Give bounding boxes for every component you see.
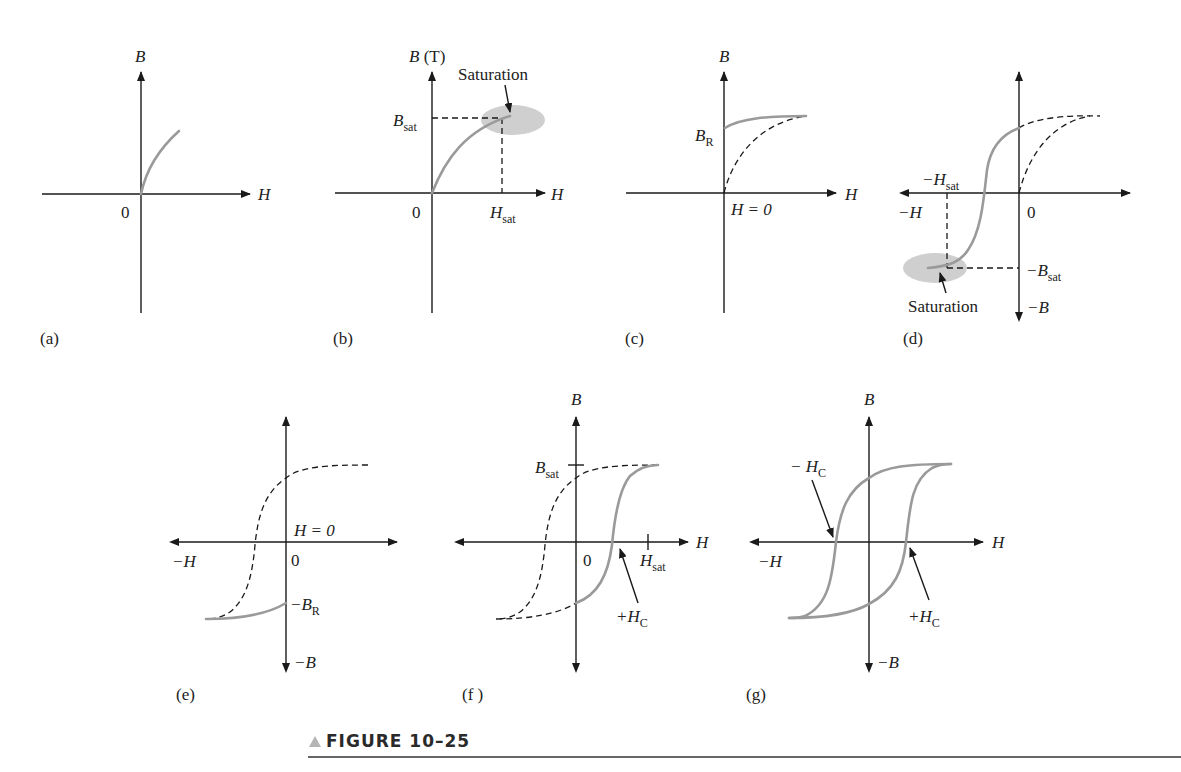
hysteresis-figure: B H 0 (a) B (T) Saturation Bsat Hsat H 0… <box>0 0 1181 772</box>
neg-b-label: −B <box>877 653 899 672</box>
origin-label: 0 <box>121 203 130 222</box>
neg-h-label: −H <box>758 552 783 571</box>
saturation-label: Saturation <box>908 297 978 316</box>
bsat-label: Bsat <box>535 458 559 481</box>
upper-curve <box>1019 116 1100 128</box>
saturation-region <box>481 105 545 135</box>
panel-b: B (T) Saturation Bsat Hsat H 0 (b) <box>333 47 565 348</box>
panel-label: (f ) <box>462 685 483 704</box>
origin-label: 0 <box>412 203 421 222</box>
neg-hc-label: − HC <box>790 457 826 480</box>
h-axis-label: H <box>550 185 565 204</box>
initial-curve <box>724 116 806 193</box>
panel-e: H = 0 −H 0 −BR −B (e) <box>172 417 397 704</box>
magnetization-curve <box>141 131 179 194</box>
origin-label: 0 <box>291 551 300 570</box>
retentivity-curve <box>725 116 806 128</box>
br-label: BR <box>695 126 713 149</box>
panel-a: B H 0 (a) <box>40 47 272 348</box>
neg-h-label: −H <box>898 203 923 222</box>
panel-label: (b) <box>333 329 353 348</box>
h-zero-label: H = 0 <box>730 200 772 219</box>
magnetization-curve <box>576 465 658 603</box>
b-axis-label: B <box>719 47 730 66</box>
b-axis-label: B <box>571 390 582 409</box>
bsat-label: Bsat <box>393 111 417 134</box>
pos-hc-arrow <box>910 548 929 600</box>
b-axis-label: B <box>135 47 146 66</box>
neg-br-label: −BR <box>290 595 320 618</box>
panel-label: (d) <box>903 329 923 348</box>
h-axis-label: H <box>991 533 1006 552</box>
h-axis-label: H <box>695 533 710 552</box>
neg-b-label: −B <box>1027 298 1049 317</box>
triangle-icon <box>309 736 321 747</box>
neg-hc-arrow <box>812 480 833 537</box>
neg-bsat-label: −Bsat <box>1026 261 1062 284</box>
h-zero-label: H = 0 <box>293 521 335 540</box>
neg-hsat-label: −Hsat <box>922 170 960 193</box>
panel-label: (a) <box>40 329 59 348</box>
lower-curve <box>496 603 576 619</box>
neg-b-label: −B <box>294 653 316 672</box>
origin-label: 0 <box>583 551 592 570</box>
panel-d: −Hsat −H 0 −Bsat Saturation −B (d) <box>898 72 1130 348</box>
demagnetization-curve <box>928 128 1019 268</box>
panel-label: (g) <box>746 685 766 704</box>
initial-curve <box>1019 116 1090 193</box>
origin-label: 0 <box>1027 203 1036 222</box>
pos-hc-label: +HC <box>616 607 648 630</box>
figure-number: FIGURE 10–25 <box>326 731 470 751</box>
figure-caption: FIGURE 10–25 <box>308 731 1181 757</box>
pos-hc-arrow <box>620 549 638 603</box>
saturation-label: Saturation <box>458 65 528 84</box>
panel-g: B − HC H −H +HC −B (g) <box>746 390 1006 704</box>
b-axis-label: B (T) <box>409 47 445 66</box>
hsat-label: Hsat <box>489 203 516 226</box>
panel-f: B Bsat 0 Hsat H +HC (f ) <box>462 390 710 704</box>
h-axis-label: H <box>844 185 859 204</box>
b-axis-label: B <box>864 390 875 409</box>
panel-label: (e) <box>176 685 195 704</box>
h-axis-label: H <box>257 185 272 204</box>
hsat-label: Hsat <box>639 551 666 574</box>
return-curve <box>206 603 286 619</box>
pos-hc-label: +HC <box>908 607 940 630</box>
panel-c: B BR H = 0 H (c) <box>625 47 859 348</box>
panel-label: (c) <box>625 329 644 348</box>
neg-h-label: −H <box>172 552 197 571</box>
